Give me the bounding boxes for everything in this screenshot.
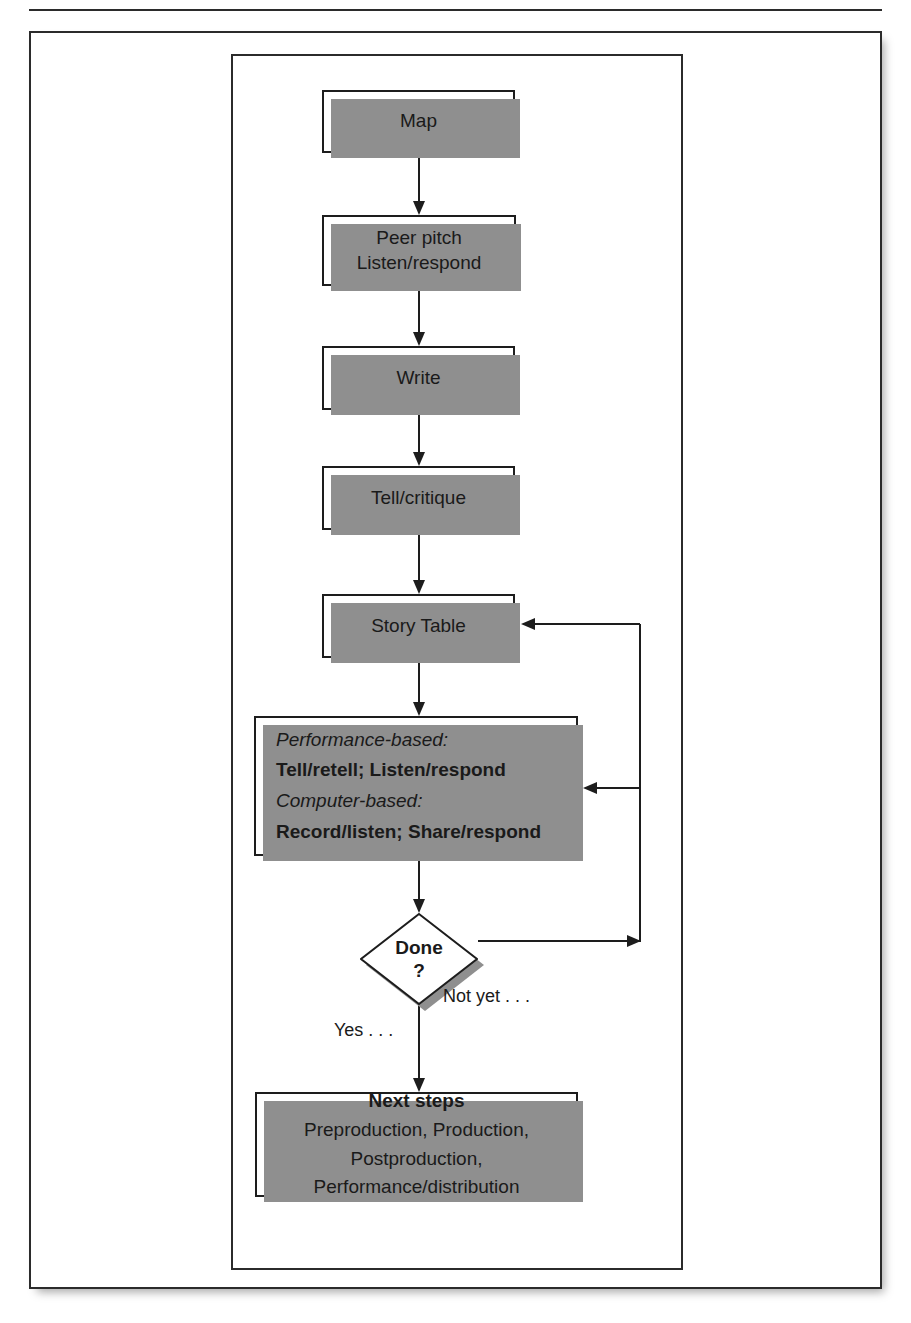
node-methods-performance-detail: Tell/retell; Listen/respond	[276, 758, 506, 783]
node-tell-critique-label: Tell/critique	[371, 486, 466, 511]
node-story-table[interactable]: Story Table	[322, 594, 515, 658]
node-write-label: Write	[397, 366, 441, 391]
node-methods-performance-heading: Performance-based:	[276, 728, 448, 753]
node-methods-computer-heading: Computer-based:	[276, 789, 422, 814]
figure-canvas: Map Peer pitch Listen/respond Write Tell…	[0, 0, 911, 1323]
node-next-steps-line3: Performance/distribution	[314, 1175, 520, 1200]
node-peer-pitch-line1: Peer pitch	[376, 226, 462, 251]
node-methods[interactable]: Performance-based: Tell/retell; Listen/r…	[254, 716, 578, 856]
node-next-steps[interactable]: Next steps Preproduction, Production, Po…	[255, 1092, 578, 1197]
node-map-label: Map	[400, 109, 437, 134]
node-write[interactable]: Write	[322, 346, 515, 410]
node-tell-critique[interactable]: Tell/critique	[322, 466, 515, 530]
edge-label-not-yet: Not yet . . .	[443, 986, 530, 1007]
node-story-table-label: Story Table	[371, 614, 466, 639]
node-peer-pitch-line2: Listen/respond	[357, 251, 482, 276]
node-peer-pitch[interactable]: Peer pitch Listen/respond	[322, 215, 516, 286]
node-next-steps-line2: Postproduction,	[350, 1147, 482, 1172]
node-map[interactable]: Map	[322, 90, 515, 153]
top-rule-divider	[29, 9, 882, 11]
node-methods-computer-detail: Record/listen; Share/respond	[276, 820, 541, 845]
node-next-steps-line1: Preproduction, Production,	[304, 1118, 529, 1143]
decision-label-line2: ?	[413, 959, 425, 982]
node-next-steps-heading: Next steps	[368, 1089, 464, 1114]
edge-label-yes: Yes . . .	[334, 1020, 393, 1041]
decision-label-line1: Done	[395, 936, 443, 959]
